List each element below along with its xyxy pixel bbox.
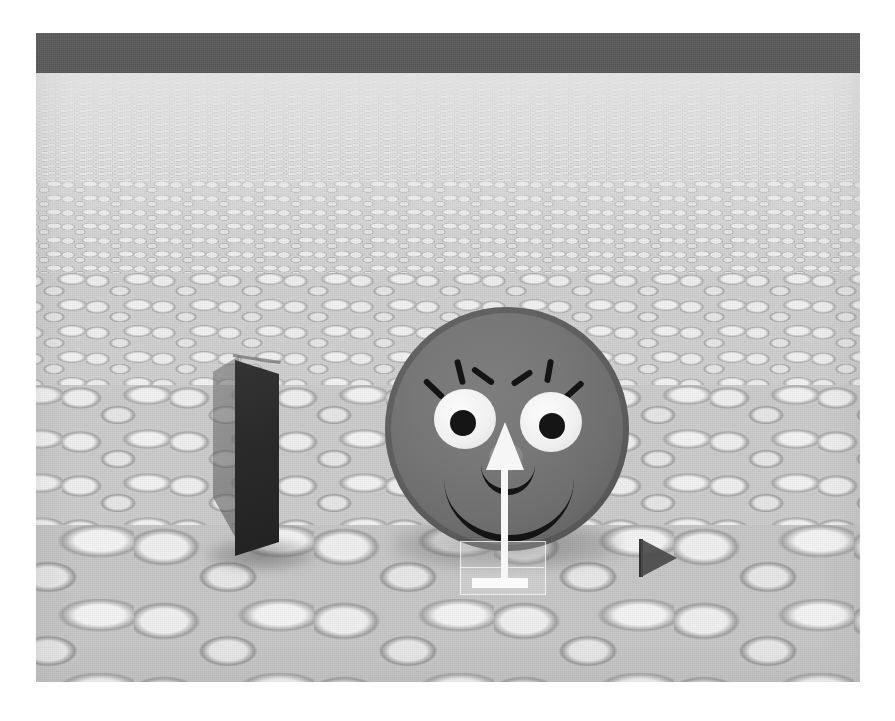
arrow-head-icon: [486, 422, 524, 470]
pupil-right: [539, 413, 565, 439]
arrow-shaft: [501, 466, 508, 588]
sky-band: [36, 33, 860, 74]
slab-obstacle[interactable]: [209, 348, 293, 563]
cobble-layer-far: [36, 73, 860, 193]
pupil-left: [450, 410, 476, 436]
direction-arrow-gizmo[interactable]: [477, 422, 533, 600]
triangle-marker[interactable]: [641, 539, 677, 577]
arrow-base: [472, 578, 528, 588]
scene-stage: [0, 0, 895, 721]
slab-front-face: [235, 356, 279, 556]
render-viewport[interactable]: [36, 33, 860, 682]
